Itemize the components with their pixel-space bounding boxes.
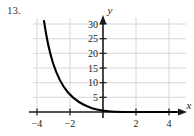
- y-axis: [100, 15, 107, 118]
- x-tick-label: −2: [65, 118, 76, 129]
- grid-horizontal: [33, 24, 186, 97]
- x-axis-label: x: [186, 99, 192, 111]
- y-tick-label: 5: [93, 92, 98, 103]
- y-tick-label: 25: [88, 33, 98, 44]
- x-tick-label: 4: [167, 118, 172, 129]
- exponential-curve: [44, 21, 178, 112]
- y-axis-label: y: [107, 4, 113, 16]
- y-tick-label: 10: [88, 77, 98, 88]
- y-tick-label: 30: [88, 19, 98, 30]
- exponential-graph-figure: 13.: [0, 0, 194, 136]
- y-tick-labels: 30 25 20 15 10 5: [88, 19, 98, 103]
- plot-canvas: 30 25 20 15 10 5 −4 −2 2 4 x y: [0, 0, 194, 136]
- x-tick-labels: −4 −2 2 4: [32, 118, 172, 129]
- y-tick-label: 20: [88, 48, 98, 59]
- x-tick-label: 2: [134, 118, 139, 129]
- y-tick-label: 15: [88, 63, 98, 74]
- x-tick-label: −4: [32, 118, 43, 129]
